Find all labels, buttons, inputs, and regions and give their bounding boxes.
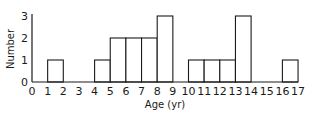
histogram-bar	[235, 16, 251, 82]
histogram-bar	[157, 16, 173, 82]
x-tick-label: 8	[154, 85, 161, 98]
x-tick-labels: 01234567891011121314151617	[29, 85, 306, 98]
histogram-bar	[110, 38, 126, 82]
x-tick-label: 1	[44, 85, 51, 98]
y-axis-label: Number	[5, 28, 16, 69]
histogram-bars	[48, 16, 298, 82]
x-tick-label: 4	[91, 85, 98, 98]
x-tick-label: 12	[213, 85, 227, 98]
histogram-bar	[220, 60, 236, 82]
histogram-chart: 0123 01234567891011121314151617 Number A…	[0, 0, 309, 119]
x-tick-label: 6	[122, 85, 129, 98]
y-tick-label: 3	[21, 10, 28, 23]
x-tick-label: 14	[244, 85, 258, 98]
x-tick-label: 16	[275, 85, 289, 98]
histogram-bar	[204, 60, 220, 82]
x-tick-label: 3	[75, 85, 82, 98]
histogram-bar	[189, 60, 205, 82]
histogram-bar	[126, 38, 142, 82]
x-tick-label: 11	[197, 85, 211, 98]
x-tick-label: 2	[60, 85, 67, 98]
x-tick-label: 0	[29, 85, 36, 98]
x-tick-label: 15	[260, 85, 274, 98]
x-tick-label: 5	[107, 85, 114, 98]
x-tick-label: 10	[182, 85, 196, 98]
y-tick-label: 0	[21, 76, 28, 89]
histogram-bar	[142, 38, 158, 82]
histogram-bar	[282, 60, 298, 82]
histogram-bar	[48, 60, 64, 82]
histogram-bar	[95, 60, 111, 82]
y-tick-label: 1	[21, 54, 28, 67]
x-tick-label: 17	[291, 85, 305, 98]
y-tick-labels: 0123	[21, 10, 28, 89]
x-tick-label: 9	[169, 85, 176, 98]
x-axis-label: Age (yr)	[145, 99, 185, 110]
x-tick-label: 7	[138, 85, 145, 98]
x-tick-label: 13	[228, 85, 242, 98]
y-tick-label: 2	[21, 32, 28, 45]
